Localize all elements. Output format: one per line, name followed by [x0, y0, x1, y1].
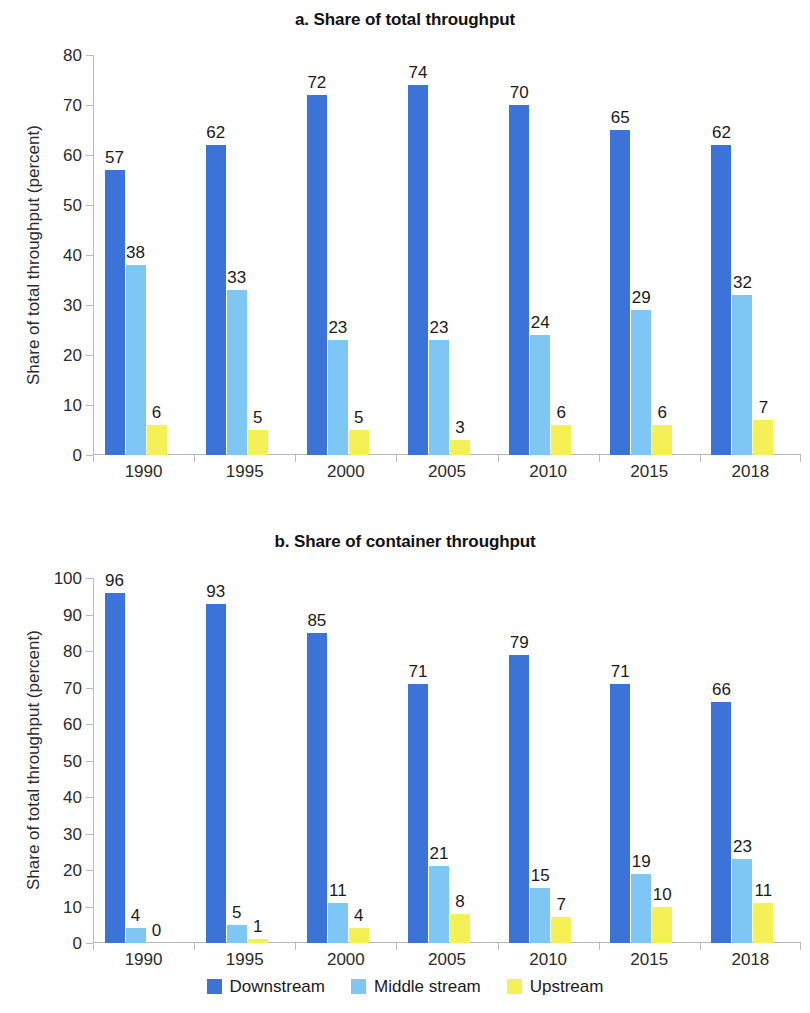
- y-axis-tick-label: 30: [63, 297, 82, 314]
- legend-item-downstream[interactable]: Downstream: [207, 978, 325, 995]
- bar-upstream: [349, 928, 369, 943]
- y-axis-tick-label: 0: [73, 935, 82, 952]
- bar-value-label: 4: [340, 907, 378, 924]
- x-axis-tick: [93, 943, 94, 950]
- y-axis-tick-label: 20: [63, 347, 82, 364]
- bar-value-label: 11: [744, 882, 782, 899]
- y-axis-tick: [86, 205, 93, 206]
- bar-middle-stream: [732, 295, 752, 455]
- y-axis-tick-label: 50: [63, 197, 82, 214]
- legend-swatch-icon: [207, 979, 222, 994]
- legend-item-upstream[interactable]: Upstream: [507, 978, 604, 995]
- bar-downstream: [105, 593, 125, 943]
- x-axis-label-2010: 2010: [498, 950, 599, 970]
- y-axis-tick: [86, 688, 93, 689]
- bar-upstream: [652, 425, 672, 455]
- y-axis-tick: [86, 155, 93, 156]
- x-axis-label-2005: 2005: [396, 462, 497, 482]
- x-axis-tick: [93, 455, 94, 462]
- bar-value-label: 24: [521, 314, 559, 331]
- bar-value-label: 72: [298, 74, 336, 91]
- bar-downstream: [408, 85, 428, 455]
- x-axis-label-2000: 2000: [295, 950, 396, 970]
- bar-upstream: [551, 917, 571, 943]
- bar-downstream: [408, 684, 428, 943]
- y-axis-tick-label: 90: [63, 606, 82, 623]
- x-axis-label-2015: 2015: [599, 950, 700, 970]
- legend-item-middle-stream[interactable]: Middle stream: [351, 978, 481, 995]
- x-axis-label-1995: 1995: [194, 462, 295, 482]
- y-axis-tick-label: 70: [63, 679, 82, 696]
- x-axis-label-1990: 1990: [93, 462, 194, 482]
- y-axis-tick-label: 80: [63, 643, 82, 660]
- x-axis-tick: [498, 943, 499, 950]
- x-axis-tick: [295, 943, 296, 950]
- bar-upstream: [753, 420, 773, 455]
- x-axis-tick: [295, 455, 296, 462]
- x-axis-label-2018: 2018: [700, 950, 801, 970]
- y-axis-tick-label: 70: [63, 97, 82, 114]
- bar-value-label: 71: [399, 663, 437, 680]
- bar-downstream: [206, 604, 226, 943]
- bar-value-label: 19: [622, 853, 660, 870]
- bar-upstream: [450, 440, 470, 455]
- bar-value-label: 70: [500, 84, 538, 101]
- chart-a-title: a. Share of total throughput: [0, 10, 810, 30]
- x-axis-tick: [800, 943, 801, 950]
- bar-value-label: 33: [218, 269, 256, 286]
- bar-middle-stream: [429, 340, 449, 455]
- bar-group: 85114: [307, 578, 369, 943]
- y-axis-tick: [86, 724, 93, 725]
- bar-value-label: 6: [138, 404, 176, 421]
- bar-value-label: 23: [319, 319, 357, 336]
- bar-group: 711910: [610, 578, 672, 943]
- x-axis-tick: [599, 455, 600, 462]
- bar-middle-stream: [328, 340, 348, 455]
- bar-middle-stream: [631, 310, 651, 455]
- chart-b-plot-area: 0102030405060708090100964093518511471218…: [93, 578, 801, 943]
- bar-value-label: 38: [117, 244, 155, 261]
- bar-value-label: 71: [601, 663, 639, 680]
- y-axis-tick: [86, 870, 93, 871]
- chart-a-plot-area: 0102030405060708057386623357223574233702…: [93, 55, 801, 455]
- bar-downstream: [610, 684, 630, 943]
- y-axis-tick: [86, 355, 93, 356]
- y-axis-tick: [86, 651, 93, 652]
- y-axis-tick-label: 20: [63, 862, 82, 879]
- legend-swatch-icon: [351, 979, 366, 994]
- chart-b-title: b. Share of container throughput: [0, 532, 810, 552]
- y-axis-tick-label: 0: [73, 447, 82, 464]
- x-axis-tick: [700, 943, 701, 950]
- bar-value-label: 3: [441, 419, 479, 436]
- x-axis-label-2000: 2000: [295, 462, 396, 482]
- y-axis-tick-label: 100: [54, 570, 82, 587]
- bar-group: 70246: [509, 55, 571, 455]
- chart-b-y-axis-line: [93, 578, 94, 943]
- bar-value-label: 74: [399, 64, 437, 81]
- x-axis-label-2010: 2010: [498, 462, 599, 482]
- bar-downstream: [711, 145, 731, 455]
- y-axis-tick-label: 30: [63, 825, 82, 842]
- bar-downstream: [105, 170, 125, 455]
- chart-a-y-axis-label: Share of total throughput (percent): [24, 125, 44, 385]
- bar-group: 62335: [206, 55, 268, 455]
- bar-value-label: 7: [542, 896, 580, 913]
- bar-value-label: 21: [420, 845, 458, 862]
- chart-a-y-axis-line: [93, 55, 94, 455]
- chart-panel-b: b. Share of container throughput Share o…: [0, 505, 810, 975]
- y-axis-tick-label: 10: [63, 898, 82, 915]
- legend-label: Downstream: [230, 978, 325, 995]
- y-axis-tick-label: 40: [63, 789, 82, 806]
- x-axis-tick: [396, 455, 397, 462]
- x-axis-label-1995: 1995: [194, 950, 295, 970]
- y-axis-tick: [86, 943, 93, 944]
- x-axis-tick: [194, 455, 195, 462]
- y-axis-tick: [86, 455, 93, 456]
- bar-value-label: 85: [298, 612, 336, 629]
- bar-value-label: 29: [622, 289, 660, 306]
- bar-group: 9351: [206, 578, 268, 943]
- bar-upstream: [551, 425, 571, 455]
- bar-middle-stream: [126, 265, 146, 455]
- bar-value-label: 6: [643, 404, 681, 421]
- y-axis-tick-label: 40: [63, 247, 82, 264]
